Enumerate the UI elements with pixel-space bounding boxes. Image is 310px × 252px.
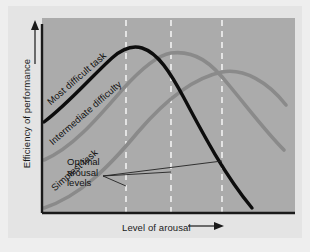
arrow-right-icon (214, 222, 224, 230)
optimal-arousal-annotation: Optimal arousal levels (67, 157, 100, 189)
arrow-up-icon (31, 20, 39, 30)
annotation-line-3: levels (67, 178, 100, 189)
yerkes-dodson-figure: Efficiency of performance Level of arous… (0, 0, 310, 252)
chart-canvas (0, 0, 310, 252)
x-axis-title: Level of arousal (122, 222, 191, 233)
y-axis-title: Efficiency of performance (21, 44, 32, 184)
annotation-line-1: Optimal (67, 157, 100, 168)
